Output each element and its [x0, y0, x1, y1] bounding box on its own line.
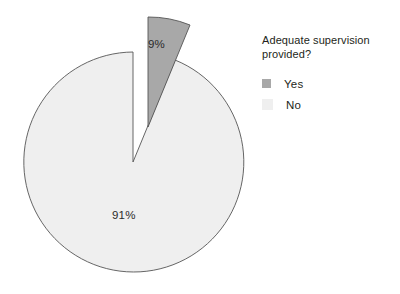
pie-slice-no[interactable] [24, 52, 244, 272]
legend-title: Adequate supervision provided? [262, 33, 394, 61]
legend-item-yes[interactable]: Yes [262, 73, 396, 94]
legend-label-no: No [286, 99, 301, 111]
legend-item-no[interactable]: No [262, 94, 396, 115]
legend-title-line-2: provided? [262, 48, 311, 60]
pie-chart-figure: 9% 91% Adequate supervision provided? Ye… [0, 0, 400, 294]
legend-title-line-1: Adequate supervision [262, 34, 370, 46]
legend-swatch-yes-icon [262, 79, 271, 88]
legend-label-yes: Yes [284, 78, 303, 90]
legend: Adequate supervision provided? Yes No [262, 33, 396, 115]
legend-swatch-no-icon [262, 99, 273, 110]
